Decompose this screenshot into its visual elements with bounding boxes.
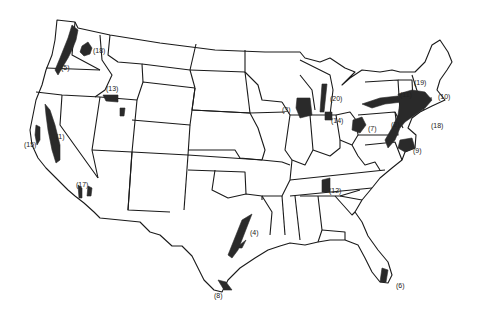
region-label-13: (13) (106, 85, 118, 92)
region-label-2: (2) (391, 121, 400, 128)
region-label-3: (3) (282, 106, 291, 113)
region-label-4: (4) (250, 229, 259, 236)
region-label-14: (14) (331, 117, 343, 124)
region-label-1: (1) (56, 133, 65, 140)
region-utah (120, 108, 125, 116)
region-label-20: (20) (330, 95, 342, 102)
region-label-19: (19) (414, 79, 426, 86)
region-label-12: (12) (329, 187, 341, 194)
region-label-10: (10) (438, 93, 450, 100)
region-label-8: (8) (214, 292, 223, 299)
region-label-7: (7) (368, 125, 377, 132)
region-label-18-west: (18) (93, 47, 105, 54)
region-label-11: (11) (400, 91, 412, 98)
region-label-15: (15) (24, 141, 36, 148)
region-label-5: (5) (61, 64, 70, 71)
region-label-18-east: (18) (431, 122, 443, 129)
region-label-17: (17) (76, 181, 88, 188)
us-map (0, 0, 485, 317)
region-label-9: (9) (413, 147, 422, 154)
region-label-6: (6) (396, 282, 405, 289)
